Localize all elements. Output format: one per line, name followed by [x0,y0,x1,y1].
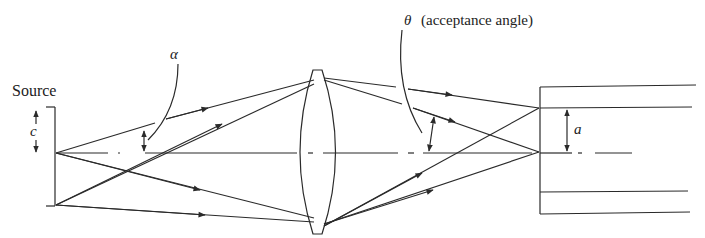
focused-rays [324,78,539,226]
diagram-canvas: Source c α θ (acceptance angle) a [0,0,705,238]
theta-leader [401,30,422,133]
theta-angle-arrow [429,117,434,151]
source-label: Source [12,82,56,99]
incident-rays [56,80,314,222]
alpha-leader [148,64,178,140]
theta-label: θ [404,12,412,28]
c-label: c [30,123,37,139]
optical-fiber [540,85,696,214]
lens-coupling-diagram: Source c α θ (acceptance angle) a [0,0,705,238]
acceptance-angle-label: (acceptance angle) [421,12,533,29]
alpha-label: α [170,46,179,62]
a-label: a [574,121,582,137]
converging-lens [300,70,336,234]
source-bracket [46,107,55,206]
